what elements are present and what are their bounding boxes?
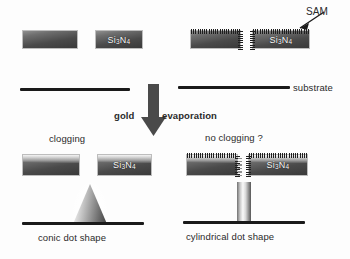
sam-coating-top-icon [191,29,240,34]
substrate-line-bottom-left [22,222,144,225]
sam-coating-side-icon [238,31,243,50]
sam-coating-side-icon-4 [246,155,251,177]
sinx-label-bottom-right: Si3N4 [267,160,290,170]
sam-coating-side-icon-2 [250,31,255,50]
no-clogging-label: no clogging ? [205,132,263,143]
substrate-line-top-right [178,86,290,89]
conic-deposit [73,184,107,224]
membrane-bottom-right-plain [186,154,238,176]
sinx-label-top-left: Si3N4 [108,35,131,45]
membrane-bottom-right-labeled: Si3N4 [248,154,308,176]
aperture-gap-residue [238,158,242,176]
membrane-bottom-left-labeled: Si3N4 [97,154,152,176]
sinx-label-top-right: Si3N4 [270,35,293,45]
diagram-canvas: Si3N4 Si3N4 SAM substrate gold evaporati… [0,0,350,259]
membrane-top-right-sam-plain [190,30,241,49]
membrane-top-left-plain [22,30,78,49]
gold-deposit-cap [23,155,79,163]
substrate-label: substrate [293,82,333,93]
sam-coating-top-icon-4 [249,153,307,158]
clogging-label: clogging [49,133,85,144]
evaporation-label: evaporation [162,110,217,121]
cylindrical-deposit [237,182,251,222]
conic-dot-shape-label: conic dot shape [38,232,106,243]
substrate-line-bottom-right [183,221,305,224]
sam-label: SAM [306,6,328,17]
gold-label: gold [114,110,134,121]
cylindrical-dot-shape-label: cylindrical dot shape [186,231,274,242]
sam-coating-top-icon-3 [187,153,237,158]
membrane-top-left-labeled: Si3N4 [95,30,143,49]
membrane-bottom-left-plain [22,154,80,176]
sinx-label-bottom-left: Si3N4 [113,160,136,170]
substrate-line-top-left [20,88,130,91]
